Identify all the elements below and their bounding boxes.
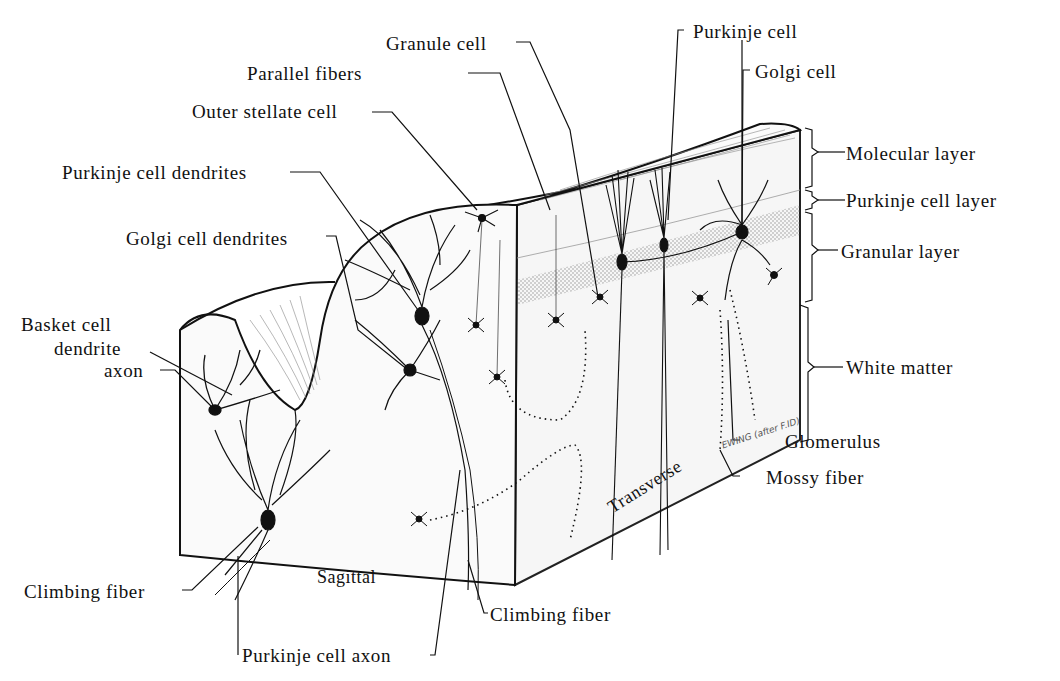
label-basket-cell: Basket cell (21, 315, 112, 334)
label-purkinje-cell-layer: Purkinje cell layer (846, 191, 997, 210)
label-granular-layer: Granular layer (841, 242, 960, 261)
label-golgi-cell-dendrites: Golgi cell dendrites (126, 229, 288, 248)
label-molecular-layer: Molecular layer (846, 144, 976, 163)
label-parallel-fibers: Parallel fibers (247, 64, 362, 83)
label-purkinje-cell: Purkinje cell (693, 22, 797, 41)
label-basket-axon: axon (104, 361, 143, 380)
label-purkinje-cell-dendrites: Purkinje cell dendrites (62, 163, 247, 182)
label-granule-cell: Granule cell (386, 34, 487, 53)
label-outer-stellate-cell: Outer stellate cell (192, 102, 337, 121)
label-mossy-fiber: Mossy fiber (766, 468, 864, 487)
transverse-face (515, 130, 800, 585)
layer-braces (800, 128, 845, 442)
label-sagittal-plane: Sagittal (317, 567, 376, 588)
label-climbing-fiber-left: Climbing fiber (24, 582, 145, 601)
label-white-matter: White matter (846, 358, 953, 377)
cerebellar-cortex-diagram: Granule cell Parallel fibers Outer stell… (0, 0, 1060, 681)
label-climbing-fiber-right: Climbing fiber (490, 605, 611, 624)
label-glomerulus: Glomerulus (785, 432, 881, 451)
label-golgi-cell: Golgi cell (755, 62, 836, 81)
label-basket-dendrite: dendrite (54, 339, 121, 358)
label-purkinje-cell-axon: Purkinje cell axon (242, 646, 391, 665)
diagram-artwork (0, 0, 1060, 681)
